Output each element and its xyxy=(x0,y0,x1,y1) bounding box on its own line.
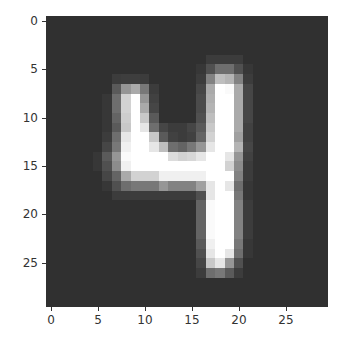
x-tick-label: 5 xyxy=(94,313,102,327)
pixel-cell xyxy=(84,171,93,181)
pixel-cell xyxy=(300,191,309,201)
pixel-cell xyxy=(112,229,121,239)
pixel-cell xyxy=(84,35,93,45)
pixel-cell xyxy=(93,64,102,74)
pixel-cell xyxy=(215,278,224,288)
pixel-cell xyxy=(159,171,168,181)
pixel-cell xyxy=(272,84,281,94)
pixel-cell xyxy=(253,161,262,171)
pixel-cell xyxy=(102,268,111,278)
pixel-cell xyxy=(253,220,262,230)
pixel-cell xyxy=(262,297,271,307)
pixel-cell xyxy=(187,45,196,55)
pixel-cell xyxy=(46,258,55,268)
pixel-cell xyxy=(140,74,149,84)
pixel-cell xyxy=(206,45,215,55)
pixel-cell xyxy=(319,191,328,201)
pixel-cell xyxy=(243,142,252,152)
pixel-cell xyxy=(272,142,281,152)
pixel-cell xyxy=(196,268,205,278)
pixel-cell xyxy=(319,45,328,55)
pixel-cell xyxy=(102,142,111,152)
pixel-cell xyxy=(149,171,158,181)
pixel-cell xyxy=(290,45,299,55)
pixel-cell xyxy=(196,123,205,133)
pixel-cell xyxy=(74,64,83,74)
pixel-cell xyxy=(102,258,111,268)
pixel-cell xyxy=(253,103,262,113)
pixel-cell xyxy=(112,152,121,162)
pixel-cell xyxy=(93,123,102,133)
pixel-cell xyxy=(112,210,121,220)
pixel-cell xyxy=(290,142,299,152)
pixel-cell xyxy=(309,74,318,84)
pixel-cell xyxy=(300,181,309,191)
pixel-cell xyxy=(272,123,281,133)
pixel-cell xyxy=(225,191,234,201)
pixel-cell xyxy=(65,258,74,268)
pixel-cell xyxy=(55,45,64,55)
pixel-cell xyxy=(65,132,74,142)
pixel-cell xyxy=(234,84,243,94)
pixel-cell xyxy=(243,171,252,181)
pixel-cell xyxy=(319,84,328,94)
pixel-cell xyxy=(112,181,121,191)
pixel-cell xyxy=(187,181,196,191)
pixel-cell xyxy=(319,229,328,239)
pixel-cell xyxy=(178,171,187,181)
pixel-cell xyxy=(102,278,111,288)
pixel-cell xyxy=(262,229,271,239)
pixel-cell xyxy=(93,45,102,55)
pixel-cell xyxy=(309,142,318,152)
pixel-cell xyxy=(243,152,252,162)
pixel-cell xyxy=(262,35,271,45)
pixel-cell xyxy=(159,268,168,278)
pixel-cell xyxy=(253,123,262,133)
pixel-cell xyxy=(243,161,252,171)
pixel-cell xyxy=(234,35,243,45)
pixel-cell xyxy=(178,181,187,191)
pixel-cell xyxy=(102,45,111,55)
pixel-cell xyxy=(309,113,318,123)
pixel-cell xyxy=(272,35,281,45)
pixel-cell xyxy=(121,26,130,36)
pixel-cell xyxy=(121,181,130,191)
pixel-cell xyxy=(102,84,111,94)
pixel-cell xyxy=(215,103,224,113)
pixel-cell xyxy=(253,278,262,288)
pixel-cell xyxy=(140,229,149,239)
pixel-cell xyxy=(149,132,158,142)
pixel-cell xyxy=(149,113,158,123)
pixel-cell xyxy=(225,103,234,113)
pixel-cell xyxy=(140,64,149,74)
pixel-cell xyxy=(281,258,290,268)
pixel-cell xyxy=(225,297,234,307)
pixel-cell xyxy=(234,171,243,181)
pixel-cell xyxy=(290,94,299,104)
pixel-cell xyxy=(262,249,271,259)
pixel-cell xyxy=(93,229,102,239)
pixel-cell xyxy=(272,210,281,220)
pixel-cell xyxy=(121,45,130,55)
pixel-cell xyxy=(225,94,234,104)
pixel-cell xyxy=(46,74,55,84)
pixel-cell xyxy=(149,191,158,201)
pixel-cell xyxy=(215,171,224,181)
pixel-cell xyxy=(262,210,271,220)
pixel-cell xyxy=(290,297,299,307)
pixel-cell xyxy=(121,16,130,26)
pixel-cell xyxy=(149,297,158,307)
pixel-cell xyxy=(93,210,102,220)
pixel-cell xyxy=(262,16,271,26)
pixel-cell xyxy=(55,297,64,307)
pixel-cell xyxy=(65,16,74,26)
pixel-cell xyxy=(300,132,309,142)
pixel-cell xyxy=(178,210,187,220)
pixel-cell xyxy=(272,74,281,84)
pixel-cell xyxy=(234,103,243,113)
pixel-cell xyxy=(243,35,252,45)
pixel-cell xyxy=(159,123,168,133)
pixel-cell xyxy=(168,64,177,74)
pixel-cell xyxy=(196,249,205,259)
pixel-cell xyxy=(225,171,234,181)
